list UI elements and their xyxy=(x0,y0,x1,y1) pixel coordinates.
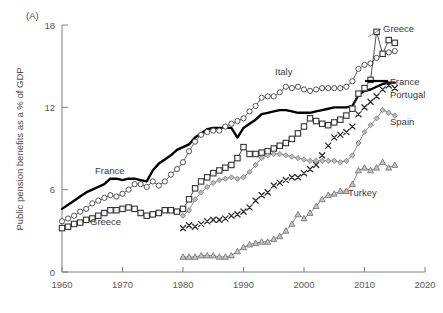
data-point-marker xyxy=(277,143,282,148)
data-point-marker xyxy=(374,55,379,60)
figure-panel-a: 0612181960197019801990200020102020 Franc… xyxy=(0,0,443,313)
data-point-marker xyxy=(126,205,131,210)
x-tick-label: 2000 xyxy=(293,279,314,290)
data-point-marker xyxy=(289,136,294,141)
data-point-marker xyxy=(211,128,216,133)
data-point-marker xyxy=(338,86,343,91)
y-axis-title: Public pension benefits as a % of GDP xyxy=(14,67,25,230)
data-point-marker xyxy=(132,182,137,187)
data-point-marker xyxy=(120,191,125,196)
label-france-inline: France xyxy=(95,165,125,176)
data-point-marker xyxy=(156,183,161,188)
data-point-marker xyxy=(271,94,276,99)
y-tick-label: 12 xyxy=(44,102,55,113)
data-point-marker xyxy=(380,51,385,56)
data-point-marker xyxy=(72,213,77,218)
data-point-marker xyxy=(283,84,288,89)
data-point-marker xyxy=(235,155,240,160)
data-point-marker xyxy=(235,118,240,123)
data-point-marker xyxy=(313,118,318,123)
label-france-right: France xyxy=(390,76,420,87)
data-point-marker xyxy=(65,216,70,221)
data-point-marker xyxy=(338,117,343,122)
data-point-marker xyxy=(90,201,95,206)
data-point-marker xyxy=(217,128,222,133)
data-point-marker xyxy=(392,40,397,45)
y-tick-label: 18 xyxy=(44,20,55,31)
data-point-marker xyxy=(392,48,397,53)
data-point-marker xyxy=(174,166,179,171)
x-tick-label: 1980 xyxy=(172,279,193,290)
label-portugal-right: Portugal xyxy=(390,89,425,100)
data-point-marker xyxy=(344,84,349,89)
data-point-marker xyxy=(229,121,234,126)
data-point-marker xyxy=(307,116,312,121)
data-point-marker xyxy=(386,50,391,55)
data-point-marker xyxy=(168,172,173,177)
pension-benefits-line-chart: 0612181960197019801990200020102020 Franc… xyxy=(0,0,443,313)
data-point-marker xyxy=(241,144,246,149)
data-point-marker xyxy=(362,85,367,90)
data-point-marker xyxy=(180,206,185,211)
data-point-marker xyxy=(102,195,107,200)
data-point-marker xyxy=(314,87,319,92)
label-greece-inline: Greece xyxy=(90,216,121,227)
data-point-marker xyxy=(77,220,82,225)
data-point-marker xyxy=(362,62,367,67)
data-point-marker xyxy=(71,221,76,226)
data-point-marker xyxy=(253,151,258,156)
data-point-marker xyxy=(108,193,113,198)
data-point-marker xyxy=(217,168,222,173)
data-point-marker xyxy=(229,162,234,167)
data-point-marker xyxy=(156,210,161,215)
data-point-marker xyxy=(283,140,288,145)
data-point-marker xyxy=(132,206,137,211)
data-point-marker xyxy=(223,165,228,170)
x-tick-label: 1970 xyxy=(112,279,133,290)
data-point-marker xyxy=(59,219,64,224)
data-point-marker xyxy=(150,212,155,217)
data-point-marker xyxy=(174,209,179,214)
data-point-marker xyxy=(301,87,306,92)
data-point-marker xyxy=(277,90,282,95)
data-point-marker xyxy=(114,194,119,199)
data-point-marker xyxy=(78,209,83,214)
data-point-marker xyxy=(289,86,294,91)
data-point-marker xyxy=(138,182,143,187)
data-point-marker xyxy=(320,86,325,91)
data-point-marker xyxy=(199,132,204,137)
data-point-marker xyxy=(198,179,203,184)
data-point-marker xyxy=(386,37,391,42)
data-point-marker xyxy=(205,129,210,134)
data-point-marker xyxy=(186,197,191,202)
data-point-marker xyxy=(301,124,306,129)
data-point-marker xyxy=(84,206,89,211)
x-tick-label: 1990 xyxy=(233,279,254,290)
data-point-marker xyxy=(180,160,185,165)
data-point-marker xyxy=(84,217,89,222)
data-point-marker xyxy=(332,86,337,91)
data-point-marker xyxy=(150,179,155,184)
data-point-marker xyxy=(186,149,191,154)
data-point-marker xyxy=(295,84,300,89)
data-point-marker xyxy=(271,146,276,151)
data-point-marker xyxy=(138,210,143,215)
y-tick-label: 0 xyxy=(50,267,55,278)
data-point-marker xyxy=(253,103,258,108)
data-point-marker xyxy=(120,206,125,211)
data-point-marker xyxy=(241,116,246,121)
data-point-marker xyxy=(102,210,107,215)
data-point-marker xyxy=(168,208,173,213)
x-tick-label: 2020 xyxy=(414,279,435,290)
chart-background xyxy=(0,0,443,313)
data-point-marker xyxy=(59,225,64,230)
data-point-marker xyxy=(65,224,70,229)
data-point-marker xyxy=(205,175,210,180)
data-point-marker xyxy=(162,179,167,184)
data-point-marker xyxy=(247,151,252,156)
data-point-marker xyxy=(332,120,337,125)
label-turkey-inline: Turkey xyxy=(348,187,377,198)
x-tick-label: 2010 xyxy=(354,279,375,290)
data-point-marker xyxy=(223,124,228,129)
data-point-marker xyxy=(211,171,216,176)
